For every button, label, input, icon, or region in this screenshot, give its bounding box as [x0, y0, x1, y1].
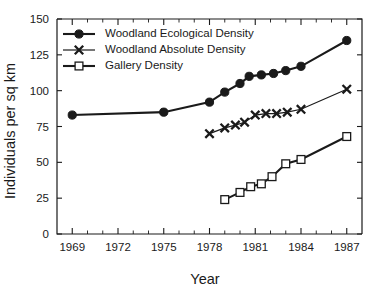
y-tick-label: 100 — [30, 85, 49, 97]
legend-label: Woodland Absolute Density — [105, 43, 246, 55]
x-axis-title: Year — [190, 271, 219, 287]
data-point — [343, 36, 351, 44]
legend-label: Woodland Ecological Density — [105, 27, 254, 39]
data-point — [221, 196, 229, 204]
data-point — [268, 173, 276, 181]
data-point — [160, 108, 168, 116]
y-tick-label: 25 — [36, 192, 49, 204]
y-tick-label: 50 — [36, 156, 49, 168]
data-point — [221, 88, 229, 96]
data-point — [247, 183, 255, 191]
x-tick-label: 1978 — [197, 241, 223, 253]
data-point — [343, 133, 351, 141]
chart-figure: 0255075100125150 19691972197519781981198… — [0, 0, 374, 291]
y-tick-label: 0 — [43, 228, 49, 240]
data-point — [257, 180, 265, 188]
y-tick-label: 75 — [36, 121, 49, 133]
x-tick-label: 1975 — [151, 241, 177, 253]
data-point — [205, 98, 213, 106]
legend-marker — [75, 62, 83, 70]
data-point — [269, 69, 277, 77]
data-point — [257, 71, 265, 79]
data-point — [282, 67, 290, 75]
x-tick-label: 1972 — [105, 241, 131, 253]
y-tick-label: 125 — [30, 49, 49, 61]
legend-label: Gallery Density — [105, 59, 183, 71]
data-point — [297, 62, 305, 70]
x-tick-label: 1981 — [242, 241, 268, 253]
data-point — [68, 111, 76, 119]
line-chart: 0255075100125150 19691972197519781981198… — [0, 0, 374, 291]
data-point — [282, 160, 290, 168]
y-tick-label: 150 — [30, 13, 49, 25]
legend-marker — [75, 30, 83, 38]
data-point — [297, 156, 305, 164]
data-point — [236, 189, 244, 197]
x-tick-label: 1984 — [288, 241, 314, 253]
data-point — [245, 72, 253, 80]
x-tick-label: 1987 — [334, 241, 360, 253]
y-axis-title: Individuals per sq km — [2, 63, 18, 199]
x-tick-label: 1969 — [59, 241, 85, 253]
data-point — [236, 79, 244, 87]
